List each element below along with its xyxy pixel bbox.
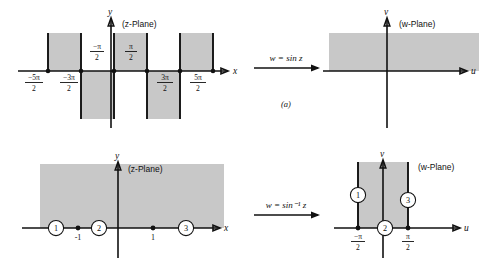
map-arrow-b-svg: w = sin⁻¹ z (240, 192, 335, 232)
panel-row-b-w-plane: u v (w-Plane) −π 2 π 2 1 2 3 (330, 140, 494, 267)
marker-label: 2 (97, 224, 101, 233)
marker-label: 3 (184, 224, 188, 233)
z-plane-strips-svg: x y (z-Plane) −5π 2 −3π 2 −π 2 π 2 3π 2 … (0, 0, 250, 135)
tick-denominator: 2 (196, 84, 200, 93)
point-pi-over-2 (406, 226, 411, 231)
tick-numerator: −π (93, 42, 101, 51)
map-label-arcsin: w = sin⁻¹ z (266, 200, 307, 210)
v-axis-label: v (380, 149, 385, 159)
w-plane-label: (w-Plane) (418, 162, 455, 172)
tick-numerator: −3π (63, 73, 75, 82)
tick-numerator: π (129, 42, 133, 51)
w-plane-label: (w-Plane) (399, 19, 436, 29)
figure-caption-a: (a) (281, 99, 291, 109)
v-axis-label: v (384, 7, 389, 17)
tick-denominator: 2 (129, 53, 133, 62)
tick-denominator: 2 (406, 243, 410, 252)
marker-1: 1 (48, 220, 63, 235)
marker-3: 3 (178, 220, 193, 235)
strip-lower-1 (81, 71, 114, 119)
marker-1: 1 (350, 187, 365, 202)
shaded-band (329, 33, 479, 71)
arrow-head-icon (311, 212, 320, 219)
u-axis-label: u (471, 66, 476, 76)
marker-2: 2 (91, 220, 106, 235)
tick-label-5pi2: 5π 2 (190, 73, 206, 93)
tick-numerator: −π (354, 232, 362, 241)
z-plane-label: (z-Plane) (128, 164, 163, 174)
z-plane-halfplane-svg: x y (z-Plane) -1 1 1 2 3 (0, 140, 250, 267)
y-axis-label: y (114, 151, 120, 161)
panel-row-b-z-plane: x y (z-Plane) -1 1 1 2 3 (0, 140, 250, 267)
marker-label: 1 (54, 224, 58, 233)
marker-label: 3 (406, 196, 410, 205)
z-plane-label: (z-Plane) (122, 19, 157, 29)
point-pos1 (151, 226, 156, 231)
marker-label: 1 (356, 191, 360, 200)
point-neg1 (76, 226, 81, 231)
x-axis-label: x (223, 223, 229, 233)
panel-row-a-w-plane: u v (w-Plane) (315, 0, 494, 135)
tick-numerator: π (406, 232, 410, 241)
strip-upper-2 (114, 33, 147, 71)
marker-3: 3 (400, 192, 415, 207)
tick-label-neg3pi2: −3π 2 (60, 73, 78, 93)
panel-row-a-z-plane: x y (z-Plane) −5π 2 −3π 2 −π 2 π 2 3π 2 … (0, 0, 250, 135)
tick-label-pos1: 1 (151, 233, 155, 242)
tick-denominator: 2 (356, 243, 360, 252)
marker-2: 2 (377, 220, 392, 235)
w-plane-strip-svg: u v (w-Plane) −π 2 π 2 1 2 3 (330, 140, 494, 267)
tick-label-negpi2: −π 2 (90, 42, 104, 62)
tick-label-neg5pi2: −5π 2 (25, 73, 43, 93)
u-axis-label: u (464, 223, 469, 233)
map-label-sin: w = sin z (270, 53, 303, 63)
strip-upper-1 (48, 33, 81, 71)
x-axis-label: x (232, 66, 238, 76)
tick-label-pi-over-2: π 2 (402, 232, 414, 252)
w-plane-band-svg: u v (w-Plane) (315, 0, 494, 135)
tick-denominator: 2 (32, 84, 36, 93)
y-axis-label: y (107, 7, 113, 17)
tick-numerator: −5π (28, 73, 40, 82)
tick-numerator: 5π (194, 73, 202, 82)
marker-label: 2 (383, 224, 387, 233)
tick-label-neg-pi-over-2: −π 2 (351, 232, 365, 252)
point-neg-pi-over-2 (356, 226, 361, 231)
tick-denominator: 2 (95, 53, 99, 62)
strip-upper-3 (180, 33, 213, 71)
tick-denominator: 2 (67, 84, 71, 93)
tick-numerator: 3π (161, 73, 169, 82)
tick-denominator: 2 (163, 84, 167, 93)
map-arrow-row-b: w = sin⁻¹ z (240, 192, 335, 232)
tick-label-neg1: -1 (75, 233, 82, 242)
